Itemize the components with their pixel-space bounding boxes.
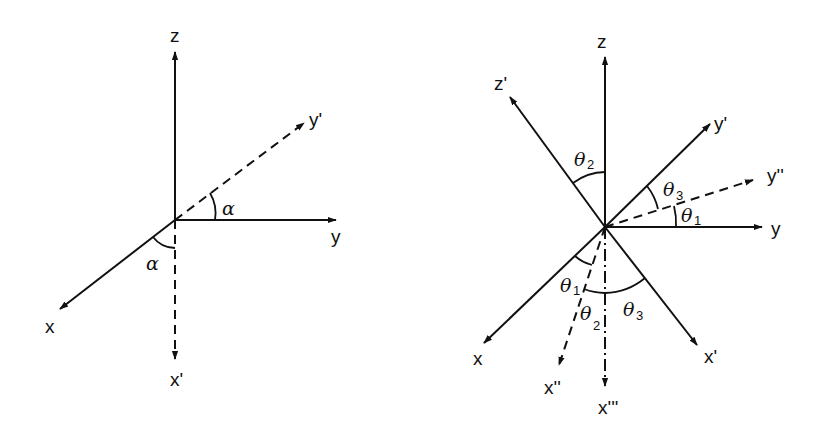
- y-prime-axis: [175, 123, 304, 220]
- label-z: z: [597, 31, 607, 52]
- label-x: x: [45, 316, 55, 337]
- label-theta1-bottom: θ 1: [560, 274, 580, 298]
- label-x: x: [473, 348, 483, 369]
- label-theta2-bottom: θ 2: [580, 302, 600, 333]
- label-alpha-lower: α: [146, 252, 159, 274]
- alpha-arc-lower: [153, 237, 175, 248]
- svg-text:3: 3: [636, 308, 643, 323]
- label-theta3-bottom: θ 3: [623, 298, 643, 323]
- theta1-arc-bottom: [575, 256, 592, 265]
- label-y-prime: y': [309, 109, 322, 130]
- label-z-prime: z': [494, 73, 507, 94]
- y-prime-axis: [605, 124, 710, 227]
- label-x-double-prime: x'': [544, 377, 561, 398]
- rotation-diagrams: z y' y x x' α α z z' y' y'' y x x'' x'''…: [0, 0, 833, 445]
- label-alpha-upper: α: [222, 197, 235, 219]
- svg-text:3: 3: [676, 188, 683, 203]
- label-theta1-right: θ 1: [681, 204, 701, 228]
- x-axis: [484, 227, 605, 343]
- svg-text:θ: θ: [663, 178, 675, 200]
- label-y: y: [331, 226, 341, 247]
- label-y-prime: y': [714, 113, 727, 134]
- svg-text:2: 2: [587, 157, 594, 172]
- right-labels: z z' y' y'' y x x'' x''' x' θ 2 θ 3 θ 1 …: [473, 31, 784, 418]
- label-z: z: [170, 25, 180, 46]
- theta3-arc-bottom: [605, 278, 645, 293]
- svg-text:1: 1: [573, 283, 580, 298]
- label-theta2-top: θ 2: [574, 148, 594, 172]
- theta2-arc-bottom: [584, 289, 605, 293]
- label-x-triple-prime: x''': [598, 397, 618, 418]
- svg-text:θ: θ: [580, 302, 592, 324]
- label-x-prime: x': [704, 346, 717, 367]
- theta2-arc-top: [573, 172, 605, 183]
- label-y-double-prime: y'': [767, 165, 784, 186]
- svg-text:1: 1: [694, 213, 701, 228]
- x-prime-axis: [605, 227, 697, 345]
- svg-text:θ: θ: [623, 298, 635, 320]
- theta3-arc-right: [647, 186, 658, 209]
- left-diagram: [60, 52, 336, 359]
- theta1-arc-right: [674, 206, 676, 227]
- label-y: y: [771, 218, 781, 239]
- label-x-prime: x': [170, 369, 183, 390]
- svg-text:θ: θ: [574, 148, 586, 170]
- svg-text:2: 2: [593, 318, 600, 333]
- label-theta3-right: θ 3: [663, 178, 683, 203]
- right-diagram: [484, 57, 762, 386]
- svg-text:θ: θ: [681, 204, 693, 226]
- alpha-arc-upper: [210, 193, 216, 220]
- svg-text:θ: θ: [560, 274, 572, 296]
